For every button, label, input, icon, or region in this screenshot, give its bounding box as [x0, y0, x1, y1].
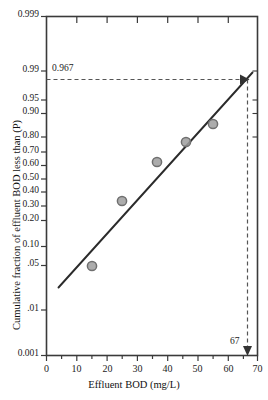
x-tick-label: 40 — [154, 363, 181, 374]
x-tick-label: 20 — [94, 363, 121, 374]
x-tick-label: 50 — [184, 363, 211, 374]
y-tick-label: 0.999 — [0, 9, 39, 19]
x-tick-label: 70 — [244, 363, 268, 374]
x-tick-label: 0 — [33, 363, 60, 374]
data-points — [87, 119, 217, 270]
y-tick-label: 0.90 — [0, 106, 39, 116]
y-tick-label: 0.001 — [0, 348, 39, 358]
data-point — [181, 137, 190, 146]
bod-value-annotation: 67 — [230, 336, 240, 346]
x-axis-title: Effluent BOD (mg/L) — [0, 379, 268, 390]
fitted-line — [59, 73, 253, 288]
axes-frame — [47, 17, 258, 356]
bottom-axis-ticks — [47, 356, 258, 362]
chart-canvas — [0, 0, 268, 400]
chart-figure: 0.999 0.99 0.95 0.90 0.80 0.70 0.60 0.50… — [0, 0, 268, 400]
y-axis-title: Cumulative fraction of effluent BOD less… — [11, 120, 22, 330]
y-tick-label: 0.99 — [0, 64, 39, 74]
horizontal-guide — [47, 75, 250, 85]
data-point — [152, 157, 161, 166]
data-point — [208, 119, 217, 128]
x-tick-label: 60 — [215, 363, 242, 374]
left-axis-ticks — [41, 17, 47, 356]
p-value-annotation: 0.967 — [52, 63, 73, 73]
x-tick-label: 10 — [63, 363, 90, 374]
y-tick-label: 0.95 — [0, 93, 39, 103]
x-tick-label: 30 — [124, 363, 151, 374]
data-point — [117, 196, 126, 205]
data-point — [87, 261, 96, 270]
top-axis-ticks — [77, 17, 229, 24]
vertical-guide — [243, 80, 252, 357]
